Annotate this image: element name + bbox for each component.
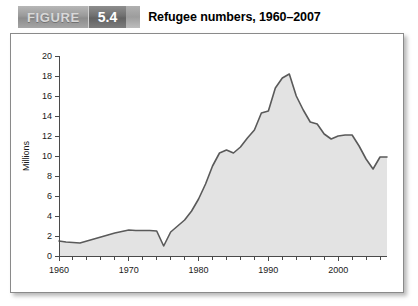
svg-text:16: 16 bbox=[42, 91, 52, 101]
figure-number: 5.4 bbox=[88, 6, 126, 28]
y-axis-title: Millions bbox=[21, 141, 31, 172]
svg-text:1970: 1970 bbox=[119, 265, 139, 275]
svg-text:1960: 1960 bbox=[49, 265, 69, 275]
svg-text:12: 12 bbox=[42, 131, 52, 141]
figure-title: Refugee numbers, 1960–2007 bbox=[140, 6, 321, 28]
svg-text:8: 8 bbox=[47, 171, 52, 181]
svg-text:6: 6 bbox=[47, 191, 52, 201]
svg-text:2000: 2000 bbox=[328, 265, 348, 275]
svg-text:0: 0 bbox=[47, 251, 52, 261]
figure-panel: 02468101214161820 19601970198019902000 M… bbox=[10, 33, 404, 293]
chart-area: 02468101214161820 19601970198019902000 M… bbox=[11, 34, 405, 294]
svg-text:10: 10 bbox=[42, 151, 52, 161]
svg-text:4: 4 bbox=[47, 211, 52, 221]
svg-text:14: 14 bbox=[42, 111, 52, 121]
figure-header-tail bbox=[126, 6, 140, 28]
svg-text:Millions: Millions bbox=[21, 141, 31, 172]
svg-text:1980: 1980 bbox=[189, 265, 209, 275]
series-area-fill bbox=[59, 74, 387, 256]
x-axis-ticks: 19601970198019902000 bbox=[49, 256, 380, 275]
svg-text:18: 18 bbox=[42, 71, 52, 81]
svg-text:1990: 1990 bbox=[258, 265, 278, 275]
y-axis-ticks: 02468101214161820 bbox=[42, 51, 59, 261]
figure-label: FIGURE bbox=[18, 6, 88, 28]
refugee-numbers-area-chart: 02468101214161820 19601970198019902000 M… bbox=[11, 34, 405, 294]
svg-text:2: 2 bbox=[47, 231, 52, 241]
figure-header: FIGURE 5.4 Refugee numbers, 1960–2007 bbox=[18, 6, 321, 28]
svg-text:20: 20 bbox=[42, 51, 52, 61]
